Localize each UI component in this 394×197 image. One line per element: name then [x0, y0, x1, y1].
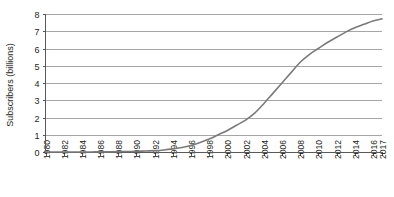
mobile-subscribers-line-chart: Subscribers (billions) 012345678 1980198… [0, 0, 394, 197]
x-tick-label: 1992 [151, 140, 161, 159]
x-tick-labels-group: 1980198219841986198819901992199419961998… [42, 140, 388, 159]
series-line-mobile-cellular-subscriptions [46, 19, 383, 152]
y-axis-title-group: Subscribers (billions) [5, 43, 15, 127]
chart-canvas: Subscribers (billions) 012345678 1980198… [0, 0, 394, 197]
y-tick-label: 3 [34, 96, 39, 106]
y-tick-labels-group: 012345678 [34, 10, 39, 158]
x-tick-label: 2008 [296, 140, 306, 159]
gridlines-group [43, 15, 383, 153]
x-tick-label: 1990 [132, 140, 142, 159]
x-tick-label: 1998 [205, 140, 215, 159]
x-tick-label: 2000 [223, 140, 233, 159]
y-tick-label: 8 [34, 10, 39, 20]
y-tick-label: 7 [34, 27, 39, 37]
x-tick-label: 1982 [60, 140, 70, 159]
x-tick-label: 1984 [78, 140, 88, 159]
x-tick-label: 1988 [114, 140, 124, 159]
x-tick-label: 1980 [42, 140, 52, 159]
y-axis-title: Subscribers (billions) [5, 43, 15, 127]
y-tick-label: 5 [34, 62, 39, 72]
x-tick-label: 2004 [260, 140, 270, 159]
y-tick-label: 1 [34, 131, 39, 141]
x-tick-label: 2002 [242, 140, 252, 159]
y-tick-label: 0 [34, 148, 39, 158]
x-tick-label: 2010 [314, 140, 324, 159]
x-tick-label: 1986 [96, 140, 106, 159]
y-tick-label: 2 [34, 114, 39, 124]
y-tick-label: 6 [34, 45, 39, 55]
x-tick-label: 2017 [378, 140, 388, 159]
x-tick-label: 1996 [187, 140, 197, 159]
y-tick-label: 4 [34, 79, 39, 89]
x-tick-label: 2012 [333, 140, 343, 159]
x-tick-label: 2014 [351, 140, 361, 159]
x-tick-label: 2006 [278, 140, 288, 159]
